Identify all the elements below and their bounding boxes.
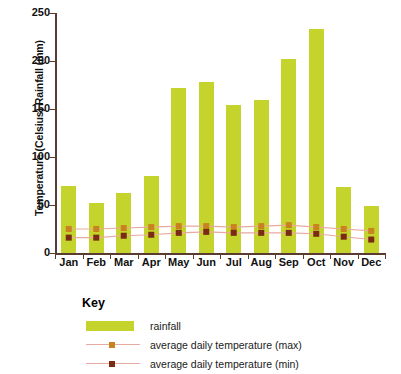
temperature-marker [121, 233, 127, 239]
temperature-series [55, 13, 385, 253]
temp-min-marker-icon [109, 361, 115, 367]
key-item-temp-max: average daily temperature (max) [82, 336, 382, 353]
temperature-marker [93, 226, 99, 232]
key-swatch-wrap [82, 340, 150, 350]
y-axis-tick-label: 50 [20, 198, 50, 210]
temperature-marker [286, 222, 292, 228]
temperature-marker [341, 234, 347, 240]
y-axis-tick-label: 0 [20, 246, 50, 258]
rainfall-swatch-icon [86, 321, 134, 331]
plot-area [55, 13, 385, 253]
y-axis-tick-label: 150 [20, 102, 50, 114]
temperature-marker [148, 232, 154, 238]
temperature-marker [258, 223, 264, 229]
temperature-marker [66, 235, 72, 241]
y-axis-tick-labels: 050100150200250 [18, 13, 50, 253]
temp-max-swatch-icon [86, 340, 140, 350]
x-axis-month-labels: JanFebMarAprMayJunJulAugSepOctNovDec [55, 256, 385, 272]
temperature-line [69, 232, 372, 240]
key-item-rainfall: rainfall [82, 317, 382, 334]
temperature-marker [286, 230, 292, 236]
temperature-marker [231, 230, 237, 236]
temperature-marker [203, 229, 209, 235]
key-title: Key [82, 296, 382, 310]
temperature-marker [313, 224, 319, 230]
key-swatch-wrap [82, 321, 150, 331]
temperature-marker [148, 224, 154, 230]
temperature-marker [368, 237, 374, 243]
temperature-marker [258, 230, 264, 236]
temperature-marker [203, 223, 209, 229]
temperature-marker [231, 224, 237, 230]
temperature-line [69, 225, 372, 231]
y-axis-tick-label: 200 [20, 54, 50, 66]
y-axis-tick-label: 100 [20, 150, 50, 162]
temperature-marker [368, 228, 374, 234]
y-axis-tick-label: 250 [20, 6, 50, 18]
month-label: Dec [354, 256, 388, 268]
temp-min-swatch-icon [86, 359, 140, 369]
temperature-marker [176, 230, 182, 236]
temperature-marker [176, 223, 182, 229]
chart-key: Key rainfall average daily temperature (… [82, 296, 382, 374]
temperature-marker [121, 225, 127, 231]
temperature-marker [341, 226, 347, 232]
temperature-marker [66, 226, 72, 232]
temperature-marker [313, 231, 319, 237]
key-label-temp-max: average daily temperature (max) [150, 339, 302, 351]
key-label-rainfall: rainfall [150, 320, 181, 332]
key-item-temp-min: average daily temperature (min) [82, 355, 382, 372]
key-label-temp-min: average daily temperature (min) [150, 358, 299, 370]
temp-max-marker-icon [109, 342, 115, 348]
key-swatch-wrap [82, 359, 150, 369]
temperature-marker [93, 235, 99, 241]
